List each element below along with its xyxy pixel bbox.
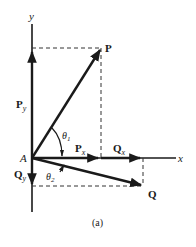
- y-axis-label: y: [28, 10, 34, 22]
- qy-label: Qy: [14, 168, 27, 183]
- vector-diagram: y x A P Q Py Px Qx Qy θ1 θ2 (a): [0, 0, 196, 247]
- py-label: Py: [16, 98, 27, 113]
- px-label: Px: [75, 142, 86, 157]
- x-axis-label: x: [177, 152, 183, 164]
- qx-label: Qx: [113, 142, 126, 157]
- theta1-arc-icon: [52, 128, 62, 156]
- q-label: Q: [148, 188, 157, 200]
- figure-caption: (a): [92, 217, 103, 229]
- origin-label: A: [19, 152, 27, 164]
- theta2-label: θ2: [46, 171, 55, 184]
- theta1-label: θ1: [62, 130, 70, 143]
- p-label: P: [105, 42, 112, 54]
